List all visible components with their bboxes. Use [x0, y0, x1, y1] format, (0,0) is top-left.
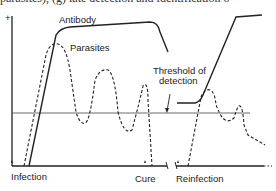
- cure-tick-icon: [144, 160, 146, 163]
- parasites-label: Parasites: [70, 42, 110, 53]
- infection-tick-icon: [11, 160, 13, 163]
- antibody-label: Antibody: [59, 14, 96, 25]
- y-axis-plus-marker: +: [5, 12, 11, 23]
- arrowhead-icon: [165, 108, 169, 113]
- cure-label: Cure: [135, 173, 156, 184]
- reinfection-tick-icon: [177, 160, 179, 163]
- infection-label: Infection: [11, 171, 47, 182]
- reinfection-label: Reinfection: [176, 173, 224, 184]
- parasites-curve: [24, 44, 152, 166]
- immune-response-diagram: + Antibody Parasites Threshold of detect…: [0, 0, 276, 191]
- threshold-label-line2: detection: [159, 75, 198, 86]
- antibody-curve-reinfection: [177, 15, 262, 103]
